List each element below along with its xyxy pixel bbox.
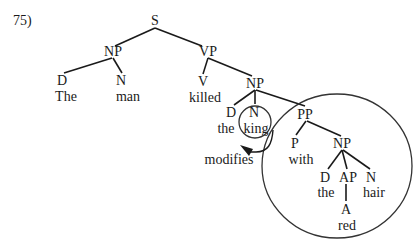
node-vp: VP — [199, 44, 217, 59]
node-n-hair: N — [366, 170, 376, 185]
branch-np-d — [64, 58, 112, 73]
node-d-the-3: D — [320, 170, 330, 185]
pp-highlight-ellipse — [262, 94, 412, 238]
word-man: man — [116, 89, 140, 104]
node-d-the-2: D — [226, 105, 236, 120]
node-d-the: D — [57, 73, 67, 88]
branch-vp-v — [203, 58, 208, 74]
word-hair: hair — [363, 185, 385, 200]
node-v: V — [198, 74, 208, 89]
node-p: P — [291, 136, 299, 151]
tree-nodes: S NP D The N man VP V killed NP D the N … — [55, 13, 385, 233]
node-np-object: NP — [246, 76, 264, 91]
node-a: A — [341, 202, 352, 217]
word-the-2: the — [217, 121, 234, 136]
example-number: 75) — [13, 13, 32, 29]
node-s: S — [151, 13, 159, 28]
node-np-inner: NP — [333, 136, 351, 151]
node-ap: AP — [339, 170, 357, 185]
word-killed: killed — [189, 90, 221, 105]
branch-s-vp — [155, 28, 202, 46]
node-np-subject: NP — [104, 44, 122, 59]
branch-np3-d — [328, 150, 342, 169]
word-the-3: the — [317, 185, 334, 200]
word-red: red — [338, 218, 356, 233]
node-n-man: N — [116, 73, 126, 88]
word-the: The — [55, 89, 77, 104]
branch-vp-np — [208, 58, 252, 76]
word-king: king — [244, 121, 269, 136]
branch-pp-np — [307, 121, 341, 136]
branch-np2-pp — [256, 90, 305, 106]
branch-np2-d — [234, 90, 255, 105]
branch-np-n — [113, 58, 122, 73]
branch-pp-p — [296, 121, 306, 135]
syntax-tree-diagram: 75) S NP D The N man VP V killed — [0, 0, 414, 243]
word-with: with — [289, 152, 314, 167]
node-pp: PP — [297, 107, 313, 122]
modifies-label: modifies — [205, 152, 254, 167]
